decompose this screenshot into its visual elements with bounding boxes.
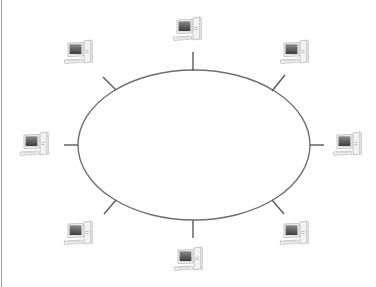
ring-bus	[78, 70, 310, 220]
network-node-lower-right[interactable]	[278, 219, 310, 247]
spoke-lower-left	[104, 200, 116, 214]
network-node-right[interactable]	[331, 130, 363, 158]
network-node-left[interactable]	[18, 130, 50, 158]
desktop-computer-icon	[62, 219, 94, 247]
spoke-lower-right	[272, 200, 284, 214]
spoke-upper-left	[103, 77, 116, 90]
network-node-top[interactable]	[171, 15, 203, 43]
spoke-upper-right	[272, 75, 285, 91]
desktop-computer-icon	[18, 130, 50, 158]
ring-network-diagram	[0, 0, 376, 287]
desktop-computer-icon	[278, 38, 310, 66]
spokes	[64, 52, 324, 238]
desktop-computer-icon	[171, 15, 203, 43]
desktop-computer-icon	[331, 130, 363, 158]
desktop-computer-icon	[62, 38, 94, 66]
desktop-computer-icon	[278, 219, 310, 247]
network-node-bottom[interactable]	[172, 245, 204, 273]
network-node-upper-left[interactable]	[62, 38, 94, 66]
network-node-upper-right[interactable]	[278, 38, 310, 66]
network-node-lower-left[interactable]	[62, 219, 94, 247]
desktop-computer-icon	[172, 245, 204, 273]
